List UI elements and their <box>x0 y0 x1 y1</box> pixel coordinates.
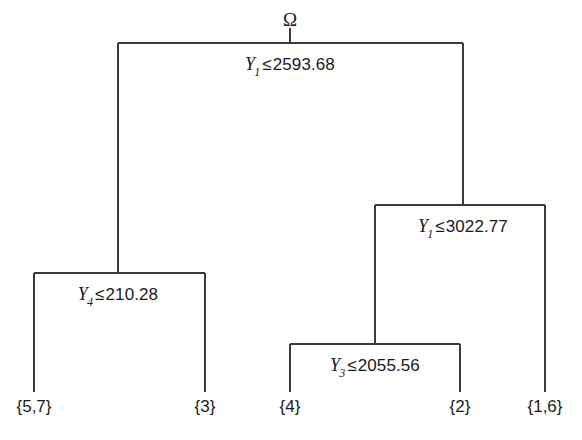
leaf-node-1-6: {1,6} <box>528 398 563 415</box>
split-left-threshold: 210.28 <box>106 285 159 304</box>
split-left-subscript: 4 <box>87 295 93 309</box>
split-root-threshold: 2593.68 <box>273 55 335 74</box>
split-right-operator: ≤ <box>434 217 445 236</box>
split-right-left-threshold: 2055.56 <box>358 356 420 375</box>
leaf-node-2: {2} <box>450 398 471 415</box>
split-right-left-subscript: 3 <box>339 366 345 380</box>
split-right-subscript: 1 <box>427 227 433 241</box>
decision-tree-figure: Ω Y1≤2593.68 Y4≤210.28 Y1≤3022.77 Y3≤205… <box>0 0 582 440</box>
leaf-node-4: {4} <box>280 398 301 415</box>
split-label-right: Y1≤3022.77 <box>418 217 508 238</box>
split-label-left: Y4≤210.28 <box>78 285 158 306</box>
split-right-left-operator: ≤ <box>346 356 357 375</box>
split-left-operator: ≤ <box>94 285 105 304</box>
leaf-node-3: {3} <box>195 398 216 415</box>
split-right-threshold: 3022.77 <box>446 217 508 236</box>
split-root-operator: ≤ <box>261 55 272 74</box>
split-label-root: Y1≤2593.68 <box>245 55 335 76</box>
leaf-node-5-7: {5,7} <box>17 398 52 415</box>
split-label-right-left: Y3≤2055.56 <box>330 356 420 377</box>
root-node-symbol: Ω <box>283 10 297 29</box>
split-root-subscript: 1 <box>254 65 260 79</box>
